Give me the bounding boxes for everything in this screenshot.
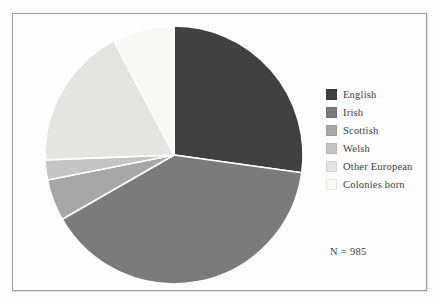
- pie-chart: [41, 22, 307, 288]
- sample-size-label: N = 985: [330, 246, 367, 257]
- legend-label-irish: Irish: [343, 107, 363, 118]
- figure-canvas: English Irish Scottish Welsh Other Europ…: [0, 0, 437, 303]
- figure-frame: English Irish Scottish Welsh Other Europ…: [12, 13, 427, 291]
- legend-label-welsh: Welsh: [343, 143, 370, 154]
- legend-item-welsh: Welsh: [326, 143, 413, 154]
- legend-item-colonies-born: Colonies born: [326, 179, 413, 190]
- legend-label-scottish: Scottish: [343, 125, 378, 136]
- legend-item-scottish: Scottish: [326, 125, 413, 136]
- legend-swatch-other-european: [326, 161, 337, 172]
- legend-swatch-scottish: [326, 125, 337, 136]
- legend-swatch-colonies-born: [326, 179, 337, 190]
- legend-item-english: English: [326, 89, 413, 100]
- legend-label-colonies-born: Colonies born: [343, 179, 405, 190]
- legend-item-other-european: Other European: [326, 161, 413, 172]
- legend: English Irish Scottish Welsh Other Europ…: [326, 89, 413, 197]
- legend-swatch-welsh: [326, 143, 337, 154]
- pie-slice-english: [174, 26, 303, 173]
- legend-label-other-european: Other European: [343, 161, 413, 172]
- legend-label-english: English: [343, 89, 377, 100]
- legend-item-irish: Irish: [326, 107, 413, 118]
- legend-swatch-irish: [326, 107, 337, 118]
- legend-swatch-english: [326, 89, 337, 100]
